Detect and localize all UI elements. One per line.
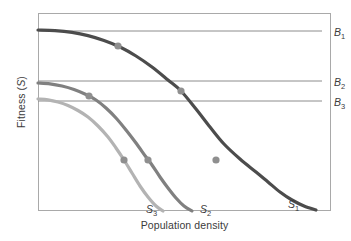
series-label-S1: S1 [288, 198, 299, 213]
reference-line-label-B3: B3 [334, 96, 345, 111]
series-label-S3-subscript: 3 [153, 209, 157, 218]
reference-line-label-B3-subscript: 3 [341, 102, 345, 111]
y-axis-label-close: ) [15, 76, 27, 80]
series-marker-S1-3 [212, 156, 219, 163]
y-axis-label-symbol: S [15, 80, 27, 87]
series-label-S1-symbol: S [288, 198, 295, 210]
reference-line-label-B3-symbol: B [334, 96, 341, 108]
series-label-S2-symbol: S [200, 203, 207, 215]
series-label-S1-subscript: 1 [295, 204, 299, 213]
series-curve-S1 [38, 30, 316, 210]
series-marker-S2-2 [144, 156, 151, 163]
reference-line-label-B1: B1 [334, 26, 345, 41]
series-marker-S1-2 [177, 87, 184, 94]
y-axis-label: Fitness (S) [15, 47, 27, 157]
reference-line-label-B1-symbol: B [334, 26, 341, 38]
series-label-S3-symbol: S [146, 203, 153, 215]
series-marker-S2-1 [85, 92, 92, 99]
reference-line-label-B1-subscript: 1 [341, 32, 345, 41]
series-marker-S1-1 [114, 42, 121, 49]
series-label-S2-subscript: 2 [207, 209, 211, 218]
reference-line-label-B2-symbol: B [334, 76, 341, 88]
series-marker-S3-1 [120, 156, 127, 163]
y-axis-label-text: Fitness ( [15, 87, 27, 128]
chart-figure: Fitness (S) B1B2B3S1S2S3 Population dens… [0, 0, 351, 241]
x-axis-label: Population density [38, 219, 331, 231]
chart-canvas [38, 13, 351, 223]
series-curves-group [38, 30, 316, 211]
series-markers-group [85, 42, 219, 163]
series-label-S2: S2 [200, 203, 211, 218]
reference-line-label-B2-subscript: 2 [341, 82, 345, 91]
reference-line-label-B2: B2 [334, 76, 345, 91]
series-label-S3: S3 [146, 203, 157, 218]
